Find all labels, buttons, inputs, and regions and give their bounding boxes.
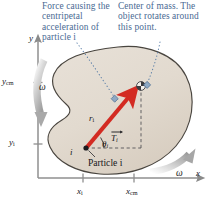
- x-tick-cm-subscript: cm: [130, 189, 138, 196]
- particle-i-dot: [83, 145, 88, 150]
- theta-label-subscript: i: [106, 142, 108, 149]
- omega-label-right: ω: [176, 168, 183, 178]
- y-tick-label-cm: ycm: [2, 76, 14, 86]
- x-tick-label-cm: xcm: [126, 186, 138, 196]
- callout-force-text: Force causing the centripetal accelerati…: [42, 1, 114, 43]
- callout-center-of-mass-text: Center of mass. The object rotates aroun…: [118, 1, 202, 32]
- force-label-subscript: i: [116, 136, 118, 143]
- y-tick-cm-subscript: cm: [6, 79, 14, 86]
- force-label-base: T: [111, 133, 116, 143]
- x-tick-label-i: xi: [77, 186, 83, 196]
- particle-caption-label: Particle i: [88, 157, 122, 168]
- y-tick-label-i: yi: [9, 137, 15, 147]
- theta-angle-label: θi: [102, 139, 108, 149]
- center-of-mass-symbol: [137, 82, 146, 91]
- force-label-vector-group: T: [111, 133, 116, 143]
- figure-canvas: Force causing the centripetal accelerati…: [0, 0, 207, 206]
- y-axis-label: y: [29, 33, 33, 43]
- omega-label-left: ω: [39, 82, 46, 92]
- radius-vector-label: ri: [89, 113, 94, 123]
- radius-label-subscript: i: [93, 116, 95, 123]
- force-vector-label: T i: [111, 133, 118, 143]
- y-tick-i-subscript: i: [13, 140, 15, 147]
- particle-marker-label: i: [70, 147, 73, 157]
- x-axis-label: x: [196, 168, 200, 178]
- omega-arrow-left: [35, 60, 48, 127]
- x-tick-i-subscript: i: [81, 189, 83, 196]
